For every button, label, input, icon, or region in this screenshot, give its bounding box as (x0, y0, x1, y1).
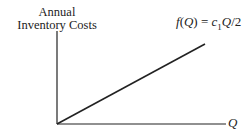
cost-line (57, 44, 205, 124)
x-axis-label: Q (228, 115, 237, 131)
function-label: f(Q) = c1Q/2 (176, 14, 241, 32)
